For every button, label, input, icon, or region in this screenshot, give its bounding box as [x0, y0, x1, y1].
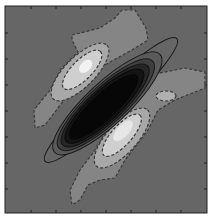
small-positive-blob [156, 91, 176, 101]
contour-figure [0, 0, 210, 216]
contour-plot [0, 0, 210, 216]
